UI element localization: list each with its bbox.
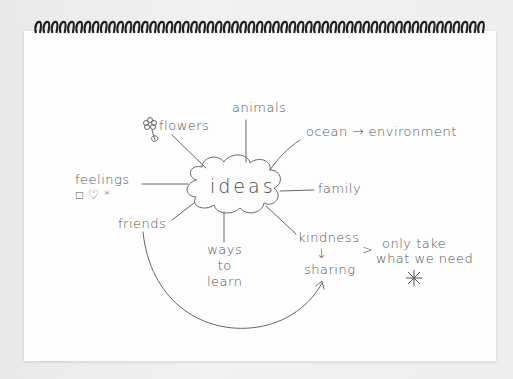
square-icon: □ — [76, 188, 84, 202]
branch-line-family — [280, 190, 314, 191]
branch-line-friends — [172, 203, 194, 220]
star-doodle — [406, 270, 422, 286]
heart-icon: ♡ — [88, 188, 100, 202]
note-line-2: what we need — [376, 251, 473, 266]
ocean-label: ocean — [306, 124, 348, 139]
feelings-symbols: □ ♡ * — [76, 188, 110, 202]
down-arrow-icon: ↓ — [316, 246, 327, 261]
flower-icon — [144, 118, 159, 142]
branch-line-flowers — [172, 135, 206, 168]
note-line-1: only take — [376, 236, 473, 251]
note-marker: > — [362, 242, 373, 257]
ways-line: ways — [207, 242, 242, 258]
node-friends: friends — [118, 216, 166, 231]
node-animals: animals — [232, 100, 286, 115]
node-feelings: feelings — [75, 172, 130, 187]
asterisk-icon: * — [104, 188, 111, 202]
environment-label: environment — [369, 124, 457, 139]
node-kindness: kindness — [298, 230, 359, 245]
learn-line: learn — [207, 274, 242, 290]
node-ocean: ocean → environment — [306, 124, 457, 139]
branch-line-ocean — [270, 140, 300, 170]
node-ideas: ideas — [210, 175, 276, 197]
node-sharing: sharing — [304, 262, 355, 277]
curve-arrowhead — [316, 281, 324, 289]
node-flowers: flowers — [159, 118, 209, 133]
arrow-icon: → — [352, 124, 363, 139]
note-text: only take what we need — [376, 236, 473, 266]
node-ways-to-learn: ways to learn — [207, 242, 242, 290]
node-family: family — [318, 181, 361, 196]
to-line: to — [207, 258, 242, 274]
branch-line-kindness — [266, 206, 296, 234]
